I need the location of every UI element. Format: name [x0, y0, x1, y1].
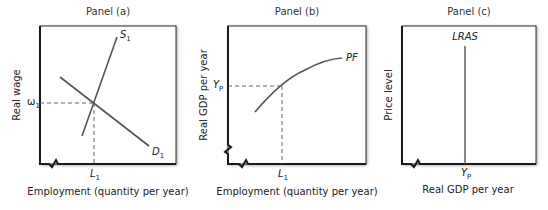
- panel-a-x-axis-title: Employment (quantity per year): [27, 186, 188, 197]
- panel-b-y-axis-title: Real GDP per year: [198, 48, 209, 140]
- panel-b: Panel (b) PF YP L1 Employment (quantity …: [198, 6, 378, 197]
- panel-a-title: Panel (a): [86, 6, 130, 17]
- panel-a-frame: [40, 26, 176, 164]
- panel-c-x-axis-title: Real GDP per year: [422, 184, 514, 195]
- panel-b-frame: [228, 26, 366, 164]
- three-panel-diagram: Panel (a) S1 D1 ω1 L1 Employment (quanti…: [0, 0, 548, 210]
- panel-b-x-axis-title: Employment (quantity per year): [216, 186, 377, 197]
- panel-a-y-axis-title: Real wage: [11, 69, 22, 121]
- panel-b-title: Panel (b): [275, 6, 319, 17]
- panel-c-frame: [402, 26, 536, 164]
- lras-label: LRAS: [452, 31, 478, 42]
- employment-tick-label: L1: [278, 168, 288, 182]
- pf-label: PF: [346, 52, 358, 63]
- potential-gdp-tick-label: YP: [213, 79, 223, 93]
- employment-tick-label: L1: [90, 168, 100, 182]
- wage-tick-label: ω1: [27, 96, 40, 110]
- panel-c-y-axis-title: Price level: [383, 69, 394, 120]
- potential-gdp-tick-label: YP: [461, 167, 471, 181]
- panel-a: Panel (a) S1 D1 ω1 L1 Employment (quanti…: [11, 6, 189, 197]
- panel-c-title: Panel (c): [447, 6, 491, 17]
- panel-c: Panel (c) LRAS YP Real GDP per year Pric…: [383, 6, 536, 195]
